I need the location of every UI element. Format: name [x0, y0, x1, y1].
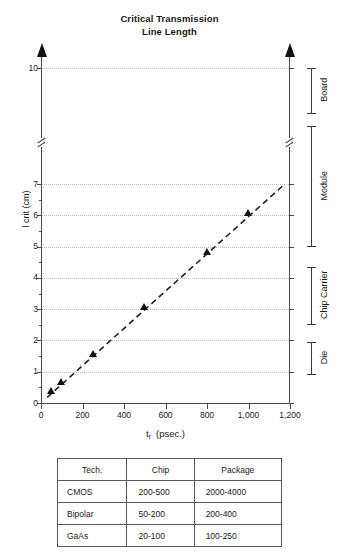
table-cell: GaAs: [58, 525, 127, 547]
table-row: CMOS200-5002000-4000: [58, 481, 282, 503]
bracket-label-die: Die: [319, 342, 329, 373]
y-tick-label-5: 5: [14, 242, 38, 251]
chart-title: Critical Transmission Line Length: [0, 12, 339, 38]
x-axis-title-unit: (psec.): [156, 428, 185, 439]
y-tick-label-0: 0: [14, 399, 38, 408]
chart-title-line-1: Critical Transmission: [0, 12, 339, 25]
table-cell: 50-200: [127, 503, 194, 525]
x-tick-800: [207, 404, 208, 409]
data-point-marker: [203, 248, 211, 255]
x-tick-label-800: 800: [187, 411, 227, 420]
x-tick-label-1000: 1,000: [229, 411, 269, 420]
x-tick-label-1200: 1,200: [270, 411, 310, 420]
y-tick-label-10: 10: [14, 64, 38, 73]
table-cell: Bipolar: [58, 503, 127, 525]
data-point-marker: [89, 350, 97, 357]
table-header-tech: Tech.: [58, 459, 127, 481]
bracket-stem: [311, 343, 312, 374]
bracket-stem: [311, 69, 312, 113]
x-tick-label-600: 600: [146, 411, 186, 420]
data-point-marker: [57, 378, 65, 385]
data-point-marker: [47, 387, 55, 394]
table-body: CMOS200-5002000-4000Bipolar50-200200-400…: [58, 481, 282, 547]
x-tick-label-200: 200: [63, 411, 103, 420]
bracket-stem: [311, 268, 312, 324]
y-tick-label-7: 7: [14, 180, 38, 189]
y-tick-label-1: 1: [14, 367, 38, 376]
data-point-marker: [244, 209, 252, 216]
table-cell: CMOS: [58, 481, 127, 503]
data-point-marker: [140, 303, 148, 310]
table-row: GaAs20-100100-250: [58, 525, 282, 547]
plot-area: 0123456710 02004006008001,0001,200 l cri…: [41, 56, 290, 404]
table-cell: 200-400: [194, 503, 281, 525]
y-axis-right-arrow-icon: [285, 43, 295, 57]
table-cell: 100-250: [194, 525, 281, 547]
table-header-package: Package: [194, 459, 281, 481]
x-tick-label-400: 400: [104, 411, 144, 420]
bracket-stem: [311, 127, 312, 246]
x-tick-1200: [290, 404, 291, 409]
table-header-row: Tech. Chip Package: [58, 459, 282, 481]
x-tick-1000: [249, 404, 250, 409]
y-tick-label-3: 3: [14, 305, 38, 314]
x-axis-title: tr(psec.): [41, 428, 290, 440]
table-cell: 200-500: [127, 481, 194, 503]
bracket-die: [307, 342, 316, 375]
y-tick-label-4: 4: [14, 273, 38, 282]
y-axis-title: l crit (cm): [21, 191, 31, 228]
bracket-label-board: Board: [319, 68, 329, 112]
y-axis-left-arrow-icon: [37, 43, 47, 57]
bracket-module: [307, 126, 316, 247]
table-row: Bipolar50-200200-400: [58, 503, 282, 525]
table-cell: 2000-4000: [194, 481, 281, 503]
bracket-label-chip-carrier: Chip Carrier: [319, 267, 329, 323]
bracket-label-module: Module: [319, 126, 329, 245]
x-tick-0: [41, 404, 42, 409]
x-tick-label-0: 0: [21, 411, 61, 420]
table-header-chip: Chip: [127, 459, 194, 481]
table-cell: 20-100: [127, 525, 194, 547]
technology-table: Tech. Chip Package CMOS200-5002000-4000B…: [57, 458, 282, 547]
x-tick-600: [166, 404, 167, 409]
bracket-board: [307, 68, 316, 114]
bracket-chip-carrier: [307, 267, 316, 325]
x-axis-title-subscript: r: [149, 433, 151, 440]
chart-title-line-2: Line Length: [0, 25, 339, 38]
trend-line: [41, 56, 290, 404]
y-tick-label-2: 2: [14, 336, 38, 345]
x-tick-200: [83, 404, 84, 409]
x-tick-400: [124, 404, 125, 409]
